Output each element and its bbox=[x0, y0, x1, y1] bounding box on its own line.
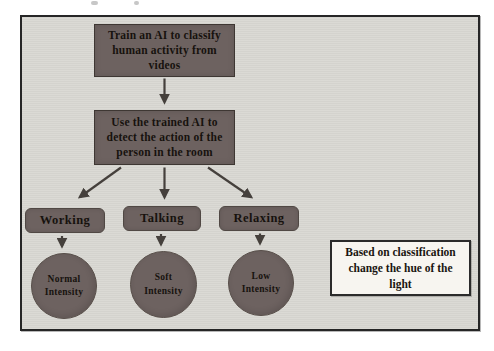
page: Train an AI to classify human activity f… bbox=[0, 0, 494, 351]
result-normal-intensity-label: Normal Intensity bbox=[40, 273, 88, 300]
note-line1: Based on classification bbox=[345, 244, 456, 260]
category-talking-label: Talking bbox=[140, 211, 184, 226]
result-low-intensity-label: Low Intensity bbox=[237, 270, 285, 297]
result-soft-intensity: Soft Intensity bbox=[130, 251, 197, 318]
flow-node-detect-line2: detect the action of the bbox=[107, 130, 223, 145]
scan-artifact bbox=[134, 1, 139, 5]
flow-node-train-line1: Train an AI to classify bbox=[108, 28, 221, 43]
flow-node-detect-action: Use the trained AI to detect the action … bbox=[94, 110, 235, 165]
flow-node-train-ai: Train an AI to classify human activity f… bbox=[94, 24, 235, 77]
note-box: Based on classification change the hue o… bbox=[330, 240, 471, 296]
flow-node-detect-line1: Use the trained AI to bbox=[111, 115, 217, 130]
scan-artifact bbox=[91, 1, 98, 5]
flow-node-detect-line3: person in the room bbox=[116, 145, 212, 160]
category-working: Working bbox=[25, 208, 105, 233]
category-talking: Talking bbox=[123, 206, 201, 231]
note-line2: change the hue of the bbox=[348, 260, 452, 276]
result-normal-intensity: Normal Intensity bbox=[31, 253, 97, 319]
flow-node-train-line3: videos bbox=[149, 58, 181, 73]
category-relaxing-label: Relaxing bbox=[233, 211, 284, 226]
category-relaxing: Relaxing bbox=[219, 206, 299, 231]
category-working-label: Working bbox=[40, 213, 91, 228]
note-line3: light bbox=[389, 276, 411, 292]
result-soft-intensity-label: Soft Intensity bbox=[139, 271, 188, 298]
flow-node-train-line2: human activity from bbox=[112, 43, 217, 58]
result-low-intensity: Low Intensity bbox=[228, 250, 294, 316]
